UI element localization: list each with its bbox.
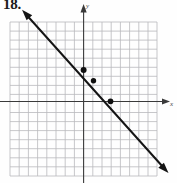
plotted-point-y-intercept <box>81 67 87 73</box>
x-axis-arrowhead <box>162 98 170 104</box>
coordinate-graph: x y <box>0 0 177 183</box>
x-axis-label: x <box>169 100 174 108</box>
plotted-point-x-intercept <box>108 98 114 104</box>
plotted-point-mid <box>91 78 96 83</box>
y-axis-label: y <box>85 2 90 10</box>
worksheet-problem-figure: 18. <box>0 0 177 183</box>
x-axis <box>0 98 170 104</box>
